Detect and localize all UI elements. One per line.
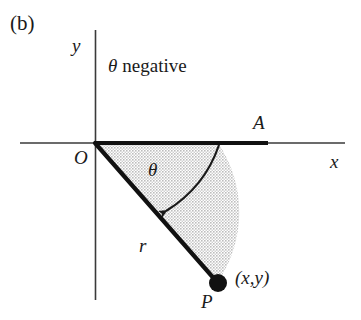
- y-axis-label: y: [72, 36, 80, 55]
- point-p-marker: [209, 274, 227, 292]
- radius-r-label: r: [139, 236, 146, 255]
- x-axis-label: x: [330, 152, 338, 171]
- polar-angle-figure: (b) y x O A θnegative θ r P (x,y): [0, 0, 361, 320]
- panel-label: (b): [10, 13, 35, 34]
- point-p-coordinates-label: (x,y): [235, 268, 269, 287]
- origin-label: O: [74, 148, 88, 167]
- point-a-label: A: [253, 113, 265, 132]
- figure-canvas: [0, 0, 361, 320]
- angle-sector-shading: [95, 143, 239, 282]
- angle-sign-note-text: negative: [122, 55, 186, 76]
- point-p-label: P: [201, 292, 213, 311]
- angle-sign-note: θnegative: [108, 56, 187, 75]
- theta-symbol-icon: θ: [108, 55, 117, 76]
- angle-theta-label: θ: [148, 160, 157, 179]
